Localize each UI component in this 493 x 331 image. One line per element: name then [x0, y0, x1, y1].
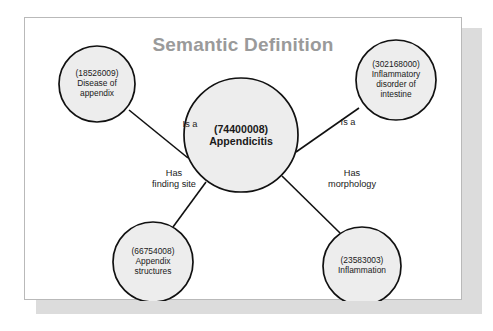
screenshot-root: Semantic Definition (74400008) Appendici…: [0, 0, 493, 331]
graph-edge-label-edge-is-a-right: Is a: [312, 117, 384, 128]
graph-node-disease-of-appendix[interactable]: [59, 46, 135, 122]
graph-node-inflammatory-disorder-of-intestine[interactable]: [356, 40, 436, 120]
graph-edge-label-edge-has-finding-site: Has finding site: [138, 168, 210, 190]
graph-edge-label-edge-has-morphology: Has morphology: [316, 168, 388, 190]
graph-edge-edge-is-a-right: [296, 108, 359, 152]
concept-graph: [25, 18, 463, 301]
graph-node-appendix-structures[interactable]: [113, 222, 193, 301]
graph-node-inflammation[interactable]: [323, 227, 401, 301]
slide-card: Semantic Definition (74400008) Appendici…: [24, 17, 462, 300]
graph-edge-edge-is-a-left: [129, 110, 188, 158]
graph-edge-label-edge-is-a-left: Is a: [154, 119, 226, 130]
